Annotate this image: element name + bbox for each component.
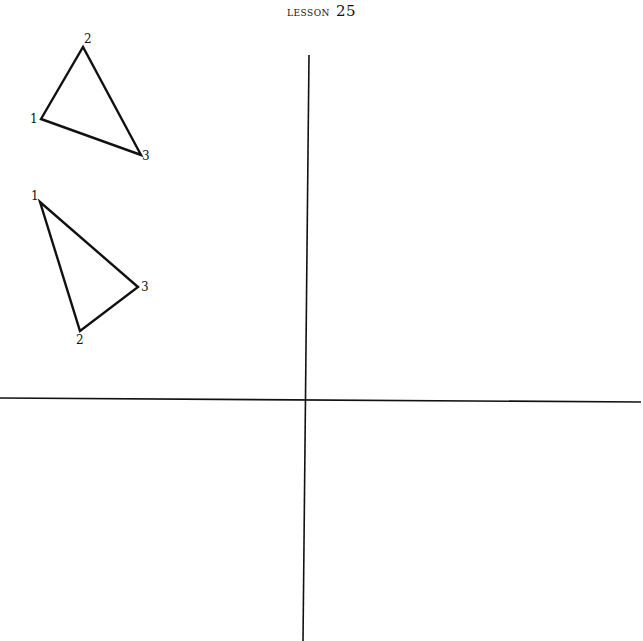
triangle-a-vertex-label: 1 (30, 112, 38, 126)
triangle-b-vertex-label: 1 (31, 189, 39, 203)
triangle-b-vertex-label: 2 (76, 333, 84, 347)
triangle-a-vertex-label: 2 (84, 32, 92, 46)
triangle-a-vertex-label: 3 (142, 149, 150, 163)
vertical-axis (303, 55, 309, 641)
triangle-b-vertex-label: 3 (141, 280, 149, 294)
triangle-a-shape (41, 47, 141, 155)
horizontal-axis (0, 398, 641, 402)
triangle-b-shape (40, 202, 138, 331)
triangle-b: 1 2 3 (31, 189, 149, 347)
figure-canvas: 1 2 3 1 2 3 (0, 0, 643, 641)
triangle-a: 1 2 3 (30, 32, 150, 163)
